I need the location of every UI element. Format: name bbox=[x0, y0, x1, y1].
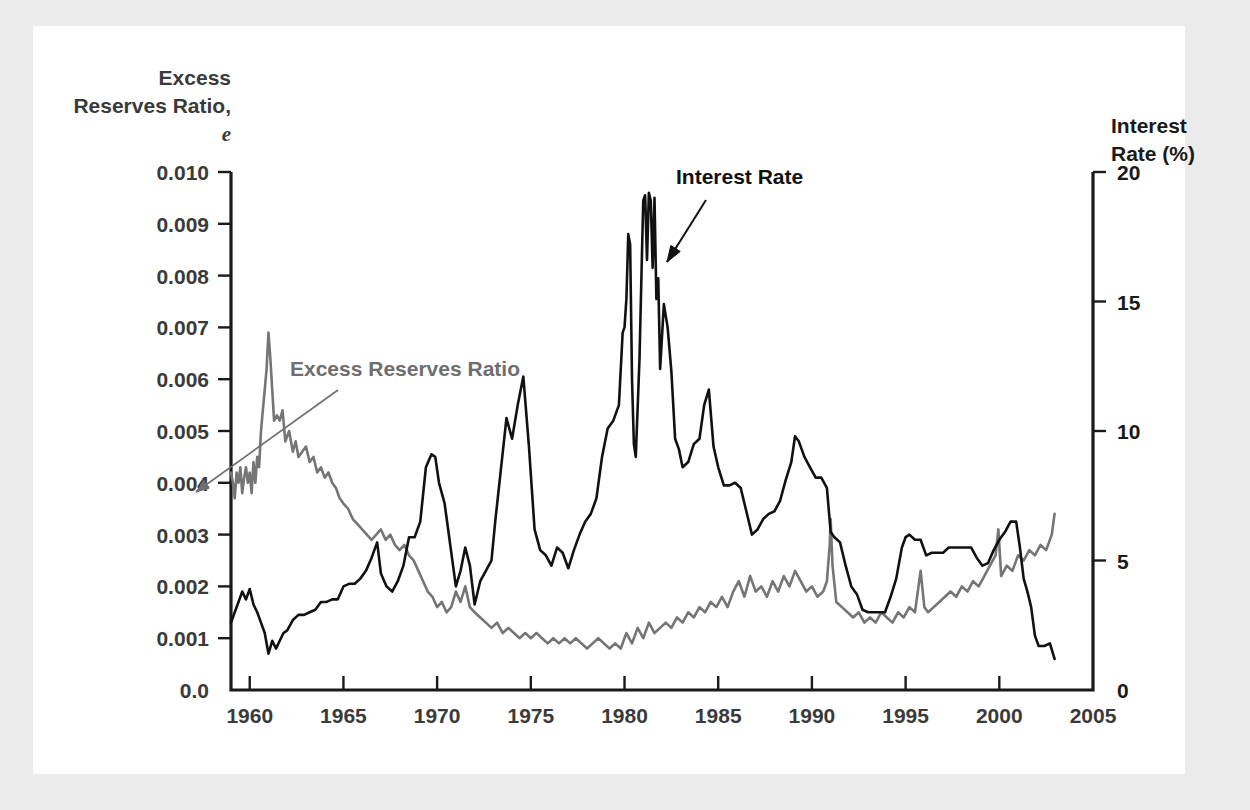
annotation-label-interest-rate: Interest Rate bbox=[676, 165, 803, 188]
left-tick-label: 0.003 bbox=[156, 524, 209, 547]
right-axis-title-line1: Interest bbox=[1111, 114, 1187, 137]
left-tick-label: 0.001 bbox=[156, 627, 209, 650]
left-tick-label: 0.006 bbox=[156, 368, 209, 391]
left-tick-label: 0.004 bbox=[156, 472, 209, 495]
axes-group bbox=[231, 172, 1093, 690]
x-tick-label: 1990 bbox=[789, 704, 836, 727]
right-tick-label: 5 bbox=[1117, 550, 1129, 573]
left-tick-label: 0.002 bbox=[156, 575, 209, 598]
right-tick-label: 0 bbox=[1117, 679, 1129, 702]
left-axis-title-line2: Reserves Ratio, bbox=[73, 94, 231, 117]
right-tick-label: 20 bbox=[1117, 161, 1140, 184]
chart-container: Excess Reserves Ratio, e Interest Rate (… bbox=[0, 0, 1250, 810]
x-tick-label: 1995 bbox=[882, 704, 929, 727]
right-tick-label: 10 bbox=[1117, 420, 1140, 443]
left-tick-label: 0.008 bbox=[156, 265, 209, 288]
left-tick-label: 0.009 bbox=[156, 213, 209, 236]
x-tick-label: 1965 bbox=[320, 704, 367, 727]
left-tick-label: 0.005 bbox=[156, 420, 209, 443]
annotation-label-excess-reserves-ratio: Excess Reserves Ratio bbox=[290, 357, 520, 380]
x-tick-label: 1985 bbox=[695, 704, 742, 727]
annotation-arrow-head bbox=[667, 245, 680, 262]
right-axis-ticks: 05101520 bbox=[1093, 161, 1141, 702]
x-tick-label: 2000 bbox=[976, 704, 1023, 727]
x-tick-label: 1975 bbox=[507, 704, 554, 727]
plot-axes-lines bbox=[231, 172, 1093, 690]
series-line-interest-rate bbox=[231, 193, 1055, 659]
left-tick-label: 0.0 bbox=[180, 679, 209, 702]
series-group bbox=[231, 193, 1055, 659]
annotation-arrow-line bbox=[196, 390, 338, 492]
left-axis-title-line1: Excess bbox=[159, 66, 231, 89]
left-tick-label: 0.010 bbox=[156, 161, 209, 184]
x-axis-ticks: 1960196519701975198019851990199520002005 bbox=[226, 676, 1116, 727]
left-axis-ticks: 0.00.0010.0020.0030.0040.0050.0060.0070.… bbox=[156, 161, 231, 702]
dual-axis-line-chart: Excess Reserves Ratio, e Interest Rate (… bbox=[0, 0, 1250, 810]
x-tick-label: 1970 bbox=[414, 704, 461, 727]
x-tick-label: 1980 bbox=[601, 704, 648, 727]
x-tick-label: 1960 bbox=[226, 704, 273, 727]
left-tick-label: 0.007 bbox=[156, 316, 209, 339]
right-tick-label: 15 bbox=[1117, 291, 1141, 314]
x-tick-label: 2005 bbox=[1070, 704, 1117, 727]
left-axis-title-symbol: e bbox=[222, 122, 231, 146]
